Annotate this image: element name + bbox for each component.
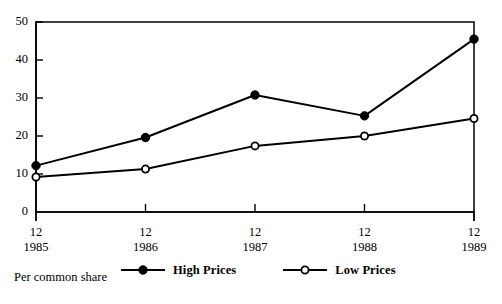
x-axis-label-1989: 121989: [444, 225, 502, 255]
axes-layer: [36, 22, 474, 221]
x-axis-label-1987: 121987: [225, 225, 285, 255]
plot-frame: [36, 22, 474, 212]
x-axis-label-year: 1986: [116, 240, 176, 255]
legend-label: High Prices: [166, 263, 236, 278]
data-point-high-1989: [470, 35, 478, 43]
x-axis-label-month: 12: [6, 225, 66, 240]
data-point-high-1985: [32, 161, 40, 169]
series-layer: [32, 35, 478, 181]
legend-item-low-prices[interactable]: Low Prices: [282, 263, 395, 278]
x-axis-label-year: 1987: [225, 240, 285, 255]
x-axis-label-year: 1988: [335, 240, 395, 255]
x-axis-label-month: 12: [444, 225, 502, 240]
data-point-high-1986: [141, 133, 149, 141]
x-axis-label-year: 1989: [444, 240, 502, 255]
y-axis-label-10: 10: [2, 166, 28, 181]
y-axis-label-40: 40: [2, 52, 28, 67]
data-point-high-1988: [360, 112, 368, 120]
x-axis-label-month: 12: [225, 225, 285, 240]
y-axis-label-20: 20: [2, 128, 28, 143]
axis-lines: [36, 22, 474, 212]
x-axis-label-year: 1985: [6, 240, 66, 255]
x-axis-label-month: 12: [116, 225, 176, 240]
data-point-low-1987: [251, 142, 258, 149]
y-axis-label-30: 30: [2, 90, 28, 105]
legend-item-high-prices[interactable]: High Prices: [120, 263, 236, 278]
data-point-high-1987: [251, 91, 259, 99]
y-axis-label-0: 0: [2, 204, 28, 219]
data-point-low-1988: [361, 132, 368, 139]
data-point-low-1989: [470, 115, 477, 122]
y-axis-label-50: 50: [2, 14, 28, 29]
legend-label: Low Prices: [328, 263, 395, 278]
legend-marker-filled-circle-icon: [120, 263, 166, 277]
x-axis-label-1988: 121988: [335, 225, 395, 255]
data-point-low-1985: [32, 173, 39, 180]
legend-marker-open-circle-icon: [282, 263, 328, 277]
x-axis-label-1985: 121985: [6, 225, 66, 255]
x-axis-label-1986: 121986: [116, 225, 176, 255]
chart-container: 01020304050 1219851219861219871219881219…: [0, 0, 502, 304]
x-axis-label-month: 12: [335, 225, 395, 240]
data-point-low-1986: [142, 165, 149, 172]
chart-legend: High PricesLow Prices: [120, 258, 460, 282]
chart-caption: Per common share: [14, 270, 107, 285]
